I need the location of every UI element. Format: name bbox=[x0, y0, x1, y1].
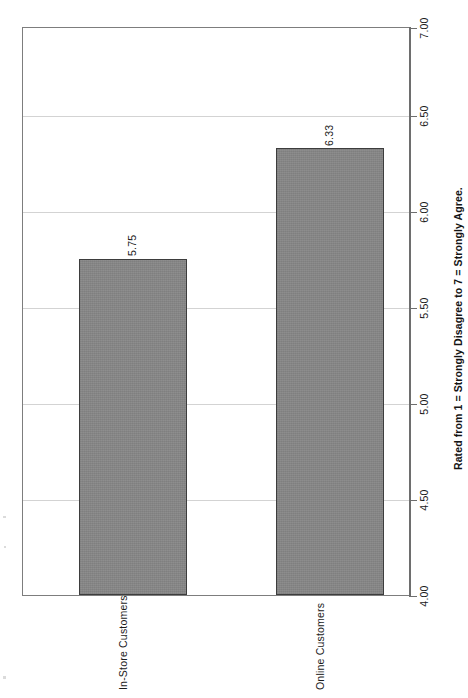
scan-artifact bbox=[3, 516, 6, 518]
bar-value-label-in-store-customers: 5.75 bbox=[126, 235, 138, 256]
value-axis-line bbox=[409, 27, 411, 597]
axis-tick-label-4.50: 4.50 bbox=[418, 477, 432, 523]
category-label-in-store-customers: In-Store Customers bbox=[117, 595, 129, 690]
value-axis-title: Rated from 1 = Strongly Disagree to 7 = … bbox=[452, 187, 464, 470]
axis-tick-6.00 bbox=[410, 212, 417, 213]
bar-chart-figure: 4.00 4.50 5.00 5.50 6.00 6.50 7.00 Rated… bbox=[0, 0, 468, 698]
bar-online-customers bbox=[276, 148, 384, 595]
axis-tick-4.50 bbox=[410, 500, 417, 501]
bar-value-label-online-customers: 6.33 bbox=[323, 125, 335, 146]
axis-tick-6.50 bbox=[410, 116, 417, 117]
category-label-online-customers: Online Customers bbox=[314, 603, 326, 690]
axis-tick-4.00 bbox=[410, 596, 417, 597]
axis-tick-7.00 bbox=[410, 28, 417, 29]
gridline-6.50 bbox=[23, 116, 409, 117]
plot-area bbox=[22, 27, 410, 596]
axis-tick-label-6.50: 6.50 bbox=[418, 93, 432, 139]
axis-tick-label-5.00: 5.00 bbox=[418, 381, 432, 427]
axis-tick-label-5.50: 5.50 bbox=[418, 285, 432, 331]
scan-artifact bbox=[3, 676, 6, 679]
bar-in-store-customers bbox=[79, 259, 187, 595]
scan-artifact bbox=[4, 546, 6, 548]
axis-tick-label-7.00: 7.00 bbox=[418, 5, 432, 51]
axis-tick-label-4.00: 4.00 bbox=[418, 573, 432, 619]
axis-tick-5.00 bbox=[410, 404, 417, 405]
axis-tick-label-6.00: 6.00 bbox=[418, 189, 432, 235]
axis-tick-5.50 bbox=[410, 308, 417, 309]
